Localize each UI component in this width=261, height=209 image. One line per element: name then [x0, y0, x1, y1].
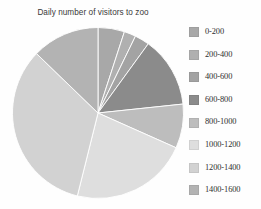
chart-page: Daily number of visitors to zoo 0-200200… [0, 0, 261, 209]
pie-chart-svg [12, 27, 184, 199]
legend-item[interactable]: 200-400 [189, 44, 261, 67]
pie-slice-group [13, 27, 184, 198]
legend-item[interactable]: 1400-1600 [189, 179, 261, 202]
legend-item[interactable]: 800-1000 [189, 111, 261, 134]
legend-item-label: 400-600 [205, 66, 232, 89]
legend-item-label: 1200-1400 [205, 157, 240, 180]
legend-swatch-icon [189, 27, 199, 37]
pie-chart [12, 27, 184, 199]
legend-item-label: 0-200 [205, 21, 224, 44]
legend-swatch-icon [189, 95, 199, 105]
legend-item-label: 800-1000 [205, 111, 236, 134]
legend-item-label: 600-800 [205, 89, 232, 112]
page-title: Daily number of visitors to zoo [0, 8, 186, 17]
legend-item-label: 1000-1200 [205, 134, 240, 157]
legend-item[interactable]: 600-800 [189, 89, 261, 112]
legend-item-label: 1400-1600 [205, 179, 240, 202]
legend-item[interactable]: 1000-1200 [189, 134, 261, 157]
legend-swatch-icon [189, 163, 199, 173]
legend-item[interactable]: 400-600 [189, 66, 261, 89]
legend-item[interactable]: 1200-1400 [189, 157, 261, 180]
legend-swatch-icon [189, 185, 199, 195]
legend-swatch-icon [189, 118, 199, 128]
legend-item-label: 200-400 [205, 44, 232, 67]
legend-swatch-icon [189, 72, 199, 82]
legend-swatch-icon [189, 50, 199, 60]
chart-legend: 0-200200-400400-600600-800800-10001000-1… [189, 21, 261, 203]
legend-item[interactable]: 0-200 [189, 21, 261, 44]
legend-swatch-icon [189, 140, 199, 150]
